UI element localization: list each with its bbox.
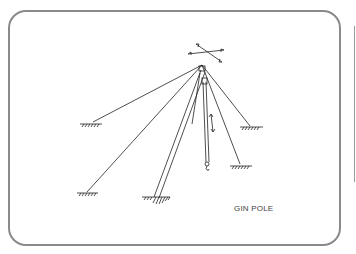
diagram-title: GIN POLE (234, 204, 273, 213)
ground-anchors (77, 124, 263, 204)
movement-arrows-icon (188, 44, 224, 62)
hoist-line (202, 78, 209, 170)
gin-pole-diagram (0, 0, 356, 254)
vertical-arrow-icon (209, 114, 215, 132)
